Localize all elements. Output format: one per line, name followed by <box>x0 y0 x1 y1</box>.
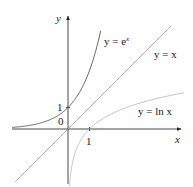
graph-exp-ln-identity: y x 0 1 1 y = ex y = x y = ln x <box>0 0 193 187</box>
y-axis-label: y <box>55 12 61 24</box>
label-identity: y = x <box>154 48 177 60</box>
origin-label: 0 <box>58 115 64 127</box>
label-exp: y = ex <box>104 35 130 47</box>
curve-y-equals-x <box>15 26 171 182</box>
x-axis-label: x <box>174 133 180 145</box>
label-ln: y = ln x <box>138 105 173 117</box>
y-tick-label-1: 1 <box>57 101 63 113</box>
x-tick-label-1: 1 <box>86 135 92 147</box>
